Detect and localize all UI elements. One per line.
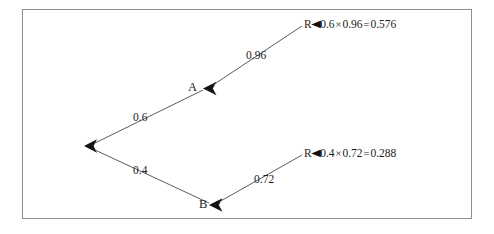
edge-weight-a-to-r: 0.96 xyxy=(246,50,266,62)
outcome-top-result: 0.576 xyxy=(370,18,396,30)
outcome-bottom-first-factor: 0.4 xyxy=(320,147,334,159)
node-label-b: B xyxy=(199,198,207,211)
edge-root-to-b xyxy=(95,150,209,203)
tree-graph xyxy=(0,0,494,234)
edge-weight-b-to-r: 0.72 xyxy=(254,174,274,186)
edge-weight-root-to-a: 0.6 xyxy=(133,112,147,124)
outcome-bottom-arrow-icon: ◀ xyxy=(311,147,321,157)
outcome-top-arrow-icon: ◀ xyxy=(311,18,321,28)
outcome-top-first-factor: 0.6 xyxy=(320,18,334,30)
node-label-a: A xyxy=(188,81,197,94)
diagram-canvas: 0.6 0.4 0.96 0.72 A B R◀0.6×0.96=0.576 R… xyxy=(0,0,494,234)
outcome-bottom-result: 0.288 xyxy=(370,147,396,159)
outcome-bottom: R◀0.4×0.72=0.288 xyxy=(304,147,396,160)
outcome-bottom-second-factor: 0.72 xyxy=(342,147,362,159)
outcome-top: R◀0.6×0.96=0.576 xyxy=(304,18,396,31)
edge-weight-root-to-b: 0.4 xyxy=(133,165,147,177)
edge-root-to-a xyxy=(95,90,203,143)
outcome-top-second-factor: 0.96 xyxy=(342,18,362,30)
node-b-arrow-icon xyxy=(209,198,223,211)
node-root-arrow-icon xyxy=(84,139,97,153)
